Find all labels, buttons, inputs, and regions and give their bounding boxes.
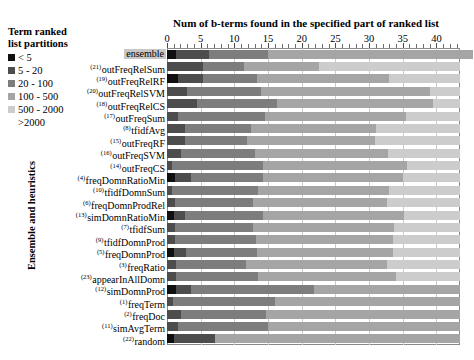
bar-segment[interactable] — [185, 124, 251, 133]
bar-segment[interactable] — [251, 124, 376, 133]
bar-segment[interactable] — [175, 173, 190, 182]
bar-segment[interactable] — [393, 235, 460, 244]
bar-segment[interactable] — [173, 297, 275, 306]
bar-segment[interactable] — [175, 223, 253, 232]
bar-segment[interactable] — [176, 50, 209, 59]
bar-row[interactable] — [167, 50, 460, 59]
bar-segment[interactable] — [167, 272, 176, 281]
stacked-bar[interactable] — [167, 235, 460, 244]
bar-segment[interactable] — [181, 310, 266, 319]
bar-row[interactable] — [167, 198, 460, 207]
stacked-bar[interactable] — [167, 310, 460, 319]
bar-segment[interactable] — [185, 136, 248, 145]
bar-row[interactable] — [167, 260, 460, 269]
bar-segment[interactable] — [253, 198, 387, 207]
bar-row[interactable] — [167, 211, 460, 220]
bar-segment[interactable] — [268, 50, 473, 59]
stacked-bar[interactable] — [167, 198, 460, 207]
bar-segment[interactable] — [167, 74, 178, 83]
stacked-bar[interactable] — [167, 74, 460, 83]
bar-segment[interactable] — [314, 285, 459, 294]
bar-row[interactable] — [167, 87, 460, 96]
bar-segment[interactable] — [430, 87, 460, 96]
bar-segment[interactable] — [181, 149, 255, 158]
bar-segment[interactable] — [167, 223, 175, 232]
bar-segment[interactable] — [167, 334, 174, 343]
stacked-bar[interactable] — [167, 173, 460, 182]
bar-segment[interactable] — [167, 50, 176, 59]
bar-segment[interactable] — [174, 211, 185, 220]
bar-segment[interactable] — [178, 112, 265, 121]
bar-segment[interactable] — [167, 260, 176, 269]
bar-segment[interactable] — [376, 124, 460, 133]
bar-segment[interactable] — [266, 310, 460, 319]
bar-row[interactable] — [167, 248, 460, 257]
bar-row[interactable] — [167, 297, 460, 306]
stacked-bar[interactable] — [167, 124, 460, 133]
stacked-bar[interactable] — [167, 87, 460, 96]
stacked-bar[interactable] — [167, 260, 460, 269]
bar-segment[interactable] — [263, 211, 404, 220]
bar-segment[interactable] — [403, 173, 460, 182]
bar-segment[interactable] — [178, 74, 204, 83]
bar-segment[interactable] — [263, 173, 403, 182]
bar-row[interactable] — [167, 62, 460, 71]
stacked-bar[interactable] — [167, 62, 460, 71]
stacked-bar[interactable] — [167, 272, 460, 281]
bar-segment[interactable] — [174, 248, 186, 257]
bar-segment[interactable] — [268, 322, 460, 331]
stacked-bar[interactable] — [167, 136, 460, 145]
bar-segment[interactable] — [396, 272, 460, 281]
bar-segment[interactable] — [167, 248, 174, 257]
stacked-bar[interactable] — [167, 322, 460, 331]
bar-segment[interactable] — [257, 74, 388, 83]
bar-segment[interactable] — [172, 161, 263, 170]
bar-segment[interactable] — [167, 198, 175, 207]
bar-segment[interactable] — [167, 173, 175, 182]
bar-segment[interactable] — [167, 87, 187, 96]
bar-segment[interactable] — [258, 272, 396, 281]
bar-segment[interactable] — [167, 124, 185, 133]
bar-segment[interactable] — [167, 235, 175, 244]
bar-segment[interactable] — [167, 322, 178, 331]
bar-row[interactable] — [167, 285, 460, 294]
stacked-bar[interactable] — [167, 112, 460, 121]
stacked-bar[interactable] — [167, 50, 473, 59]
bar-row[interactable] — [167, 322, 460, 331]
bar-row[interactable] — [167, 99, 460, 108]
bar-segment[interactable] — [215, 334, 460, 343]
bar-row[interactable] — [167, 235, 460, 244]
stacked-bar[interactable] — [167, 297, 460, 306]
bar-segment[interactable] — [275, 297, 460, 306]
bar-row[interactable] — [167, 310, 460, 319]
bar-segment[interactable] — [175, 235, 256, 244]
bar-row[interactable] — [167, 124, 460, 133]
bar-segment[interactable] — [433, 99, 460, 108]
bar-segment[interactable] — [209, 50, 268, 59]
bar-segment[interactable] — [253, 223, 394, 232]
bar-segment[interactable] — [387, 198, 460, 207]
bar-segment[interactable] — [393, 248, 460, 257]
bar-segment[interactable] — [404, 211, 460, 220]
bar-segment[interactable] — [265, 112, 406, 121]
bar-segment[interactable] — [174, 334, 214, 343]
bar-segment[interactable] — [394, 223, 460, 232]
bar-segment[interactable] — [197, 99, 277, 108]
bar-segment[interactable] — [375, 136, 460, 145]
stacked-bar[interactable] — [167, 248, 460, 257]
bar-segment[interactable] — [203, 74, 257, 83]
bar-row[interactable] — [167, 272, 460, 281]
bar-segment[interactable] — [258, 186, 389, 195]
bar-row[interactable] — [167, 173, 460, 182]
bar-segment[interactable] — [167, 149, 181, 158]
stacked-bar[interactable] — [167, 161, 460, 170]
bar-segment[interactable] — [389, 186, 460, 195]
bar-segment[interactable] — [176, 285, 191, 294]
bar-row[interactable] — [167, 334, 460, 343]
bar-segment[interactable] — [185, 211, 263, 220]
bar-segment[interactable] — [246, 260, 387, 269]
bar-segment[interactable] — [277, 99, 433, 108]
bar-segment[interactable] — [247, 136, 375, 145]
bar-segment[interactable] — [167, 62, 203, 71]
bar-segment[interactable] — [191, 173, 264, 182]
